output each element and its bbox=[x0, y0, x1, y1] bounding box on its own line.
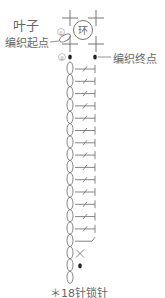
chain-stitch-icon bbox=[67, 160, 73, 172]
end-dot bbox=[93, 54, 97, 59]
chain-stitch-icon bbox=[67, 210, 73, 222]
chain-stitch-icon bbox=[67, 99, 73, 111]
chain-stitch-icon bbox=[67, 271, 73, 283]
crochet-chart: 环 ① ② bbox=[0, 0, 165, 298]
chain-stitch-icon bbox=[67, 185, 73, 197]
chain-stitch-icon bbox=[67, 173, 73, 185]
ring-label: 环 bbox=[78, 25, 88, 36]
svg-text:①: ① bbox=[59, 30, 64, 36]
chain-stitch-icon bbox=[67, 148, 73, 160]
chain-column bbox=[67, 62, 73, 283]
chain-stitch-icon bbox=[67, 197, 73, 209]
chain-stitch-icon bbox=[67, 87, 73, 99]
chain-stitch-icon bbox=[67, 234, 73, 246]
chain-stitch-icon bbox=[67, 74, 73, 86]
chain-stitch-icon bbox=[67, 111, 73, 123]
chain-stitch-icon bbox=[67, 259, 73, 271]
chain-stitch-icon bbox=[67, 123, 73, 135]
stitch-rows bbox=[75, 65, 95, 268]
chain-stitch-icon bbox=[67, 222, 73, 234]
svg-text:②: ② bbox=[60, 55, 65, 61]
chain-stitch-icon bbox=[67, 247, 73, 259]
chain-stitch-icon bbox=[67, 136, 73, 148]
slip-stitch-dot bbox=[68, 54, 72, 59]
chain-stitch-icon bbox=[67, 62, 73, 74]
